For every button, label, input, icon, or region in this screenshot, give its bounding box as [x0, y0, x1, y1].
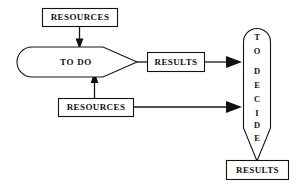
to-decide-letter-1: O — [254, 46, 261, 56]
diagram-canvas: TO DO RESOURCES RESOURCES RESULTS T O D … — [0, 0, 303, 184]
to-decide-letter-8: E — [254, 133, 260, 143]
results-middle-label: RESULTS — [155, 57, 198, 67]
node-resources-top[interactable]: RESOURCES — [43, 9, 118, 27]
process-flow-diagram: TO DO RESOURCES RESOURCES RESULTS T O D … — [0, 0, 303, 184]
node-results-bottom[interactable]: RESULTS — [227, 161, 289, 180]
edge-resources-bottom-to-to-decide — [133, 101, 242, 113]
node-to-decide[interactable]: T O D E C I D E — [244, 29, 271, 162]
to-decide-letter-7: D — [254, 120, 260, 130]
edge-resources-top-to-to-do — [76, 26, 84, 49]
edge-results-middle-to-to-decide — [204, 56, 242, 68]
node-results-middle[interactable]: RESULTS — [148, 53, 205, 72]
to-decide-letter-5: C — [254, 94, 260, 104]
resources-bottom-label: RESOURCES — [67, 102, 126, 112]
to-decide-letter-0: T — [254, 32, 260, 42]
to-do-label: TO DO — [60, 57, 92, 67]
to-decide-letter-4: E — [254, 80, 260, 90]
node-resources-bottom[interactable]: RESOURCES — [59, 99, 134, 117]
to-decide-letter-3: D — [254, 66, 260, 76]
results-bottom-label: RESULTS — [236, 165, 279, 175]
resources-top-label: RESOURCES — [51, 12, 110, 22]
node-to-do[interactable]: TO DO — [17, 47, 137, 77]
to-decide-letters: T O D E C I D E — [254, 32, 261, 143]
